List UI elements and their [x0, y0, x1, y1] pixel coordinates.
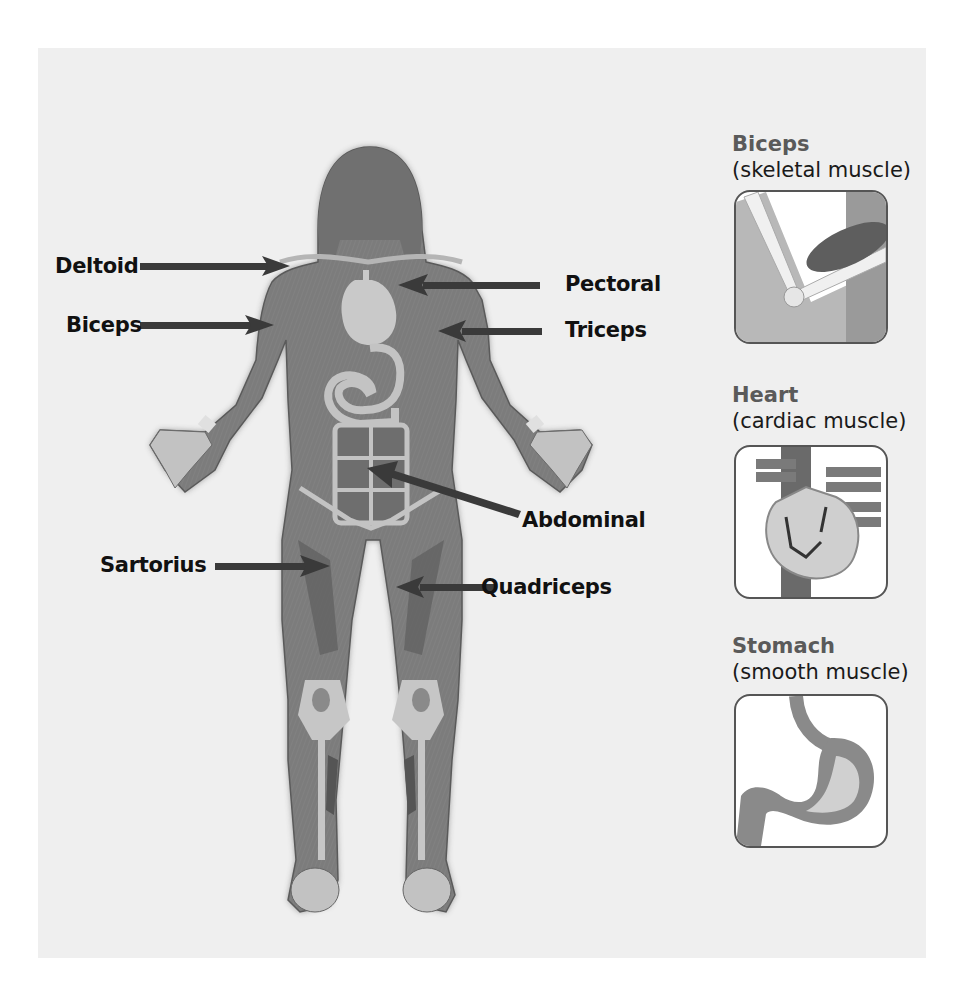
inset-heading: Heart: [732, 382, 906, 408]
inset-subheading: (skeletal muscle): [732, 157, 911, 183]
inset-title-stomach: Stomach (smooth muscle): [732, 633, 909, 686]
heart-icon: [734, 445, 888, 599]
inset-title-heart: Heart (cardiac muscle): [732, 382, 906, 435]
label-triceps: Triceps: [565, 320, 647, 341]
label-biceps: Biceps: [66, 315, 142, 336]
stomach-icon: [734, 694, 888, 848]
label-pectoral: Pectoral: [565, 274, 661, 295]
inset-title-biceps: Biceps (skeletal muscle): [732, 131, 911, 184]
arm-elbow-icon: [734, 190, 888, 344]
label-deltoid: Deltoid: [55, 256, 138, 277]
inset-heading: Biceps: [732, 131, 911, 157]
inset-subheading: (cardiac muscle): [732, 408, 906, 434]
inset-subheading: (smooth muscle): [732, 659, 909, 685]
label-sartorius: Sartorius: [100, 555, 206, 576]
inset-heading: Stomach: [732, 633, 909, 659]
label-quadriceps: Quadriceps: [481, 577, 612, 598]
label-abdominal: Abdominal: [522, 510, 645, 531]
